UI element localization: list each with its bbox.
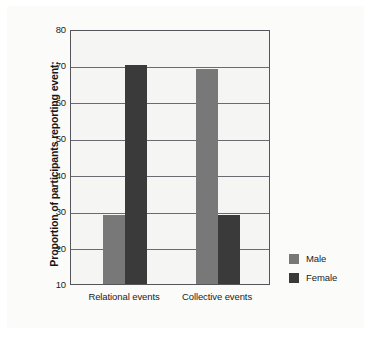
y-axis-tick-label: 80 [26, 24, 66, 35]
x-axis-tick-label: Collective events [157, 291, 277, 302]
chart-figure: Proportion of participants reporting eve… [0, 0, 371, 337]
legend-swatch-female [289, 273, 299, 283]
y-axis-tick-label: 10 [26, 279, 66, 290]
legend-label: Male [306, 253, 326, 264]
chart-legend: MaleFemale [289, 249, 337, 287]
gridline [71, 213, 269, 214]
legend-item-female: Female [289, 268, 337, 287]
bar-male-relational-events [103, 215, 125, 284]
legend-label: Female [306, 272, 337, 283]
y-axis-tick-label: 20 [26, 243, 66, 254]
gridline [71, 176, 269, 177]
y-axis-tick-label: 50 [26, 133, 66, 144]
y-axis-tick-label: 40 [26, 170, 66, 181]
y-axis-tick-label: 60 [26, 97, 66, 108]
gridline [71, 103, 269, 104]
y-axis-tick-label: 30 [26, 206, 66, 217]
bar-male-collective-events [196, 69, 218, 284]
gridline [71, 67, 269, 68]
legend-item-male: Male [289, 249, 337, 268]
bar-female-collective-events [218, 215, 240, 284]
legend-swatch-male [289, 254, 299, 264]
plot-area [70, 30, 270, 285]
y-axis-tick-label: 70 [26, 60, 66, 71]
bar-female-relational-events [125, 65, 147, 284]
gridline [71, 140, 269, 141]
